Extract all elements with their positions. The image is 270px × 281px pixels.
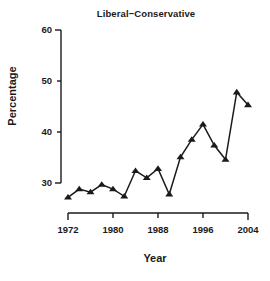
series-line — [68, 92, 248, 197]
data-point-marker — [188, 136, 196, 142]
data-point-marker — [154, 165, 162, 171]
data-point-marker — [132, 167, 140, 173]
x-tick-label: 1980 — [102, 224, 123, 235]
x-axis: 19721980198819962004 — [57, 213, 259, 235]
data-point-marker — [98, 181, 106, 187]
chart-plot-area: 30405060 19721980198819962004 — [0, 0, 270, 281]
data-point-marker — [75, 186, 83, 192]
y-axis: 30405060 — [41, 24, 61, 188]
x-tick-label: 2004 — [237, 224, 259, 235]
y-tick-label: 30 — [41, 177, 52, 188]
chart-page: Liberal−Conservative Percentage Year 304… — [0, 0, 270, 281]
data-point-marker — [233, 89, 241, 95]
data-point-marker — [210, 142, 218, 148]
data-point-marker — [177, 154, 185, 160]
data-series-liberal-conservative — [64, 89, 252, 200]
x-tick-label: 1996 — [192, 224, 213, 235]
y-tick-label: 40 — [41, 126, 52, 137]
data-point-marker — [165, 191, 173, 197]
data-point-marker — [199, 121, 207, 127]
x-tick-label: 1972 — [57, 224, 78, 235]
y-tick-label: 50 — [41, 75, 52, 86]
x-tick-label: 1988 — [147, 224, 168, 235]
y-tick-label: 60 — [41, 24, 52, 35]
